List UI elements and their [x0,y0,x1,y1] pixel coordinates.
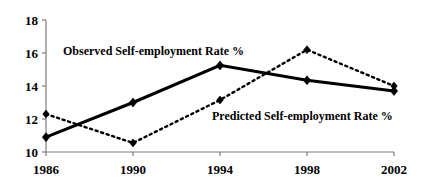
data-point-marker [303,76,310,85]
y-axis-tick-label: 16 [10,47,38,60]
x-axis-tick-label: 1994 [195,163,245,176]
x-axis-tick-label: 1986 [21,163,71,176]
y-axis-tick-label: 10 [10,146,38,159]
data-point-marker [217,96,224,104]
data-point-marker [43,110,50,118]
series-label-observed: Observed Self-employment Rate % [63,45,244,57]
data-point-marker [216,61,223,70]
data-point-marker [304,46,311,54]
x-axis-tick-label: 2002 [369,163,419,176]
y-axis-tick-label: 18 [10,14,38,27]
data-point-marker [42,133,49,142]
axes-group [42,20,394,156]
data-point-marker [130,139,137,147]
series-label-predicted: Predicted Self-employment Rate % [212,110,393,122]
self-employment-rate-chart: 1012141618 19861990199419982002 Observed… [0,0,429,192]
x-axis-tick-label: 1998 [282,163,332,176]
y-axis-tick-label: 14 [10,80,38,93]
y-axis-tick-label: 12 [10,113,38,126]
series-group [42,46,397,147]
x-axis-tick-label: 1990 [108,163,158,176]
data-point-marker [129,98,136,107]
